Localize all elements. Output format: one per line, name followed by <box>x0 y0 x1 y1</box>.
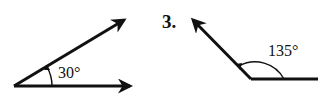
ray-upper-left <box>193 20 251 79</box>
angle-diagrams: 3. 30° 135° <box>0 0 318 108</box>
angle-135-figure <box>193 20 318 79</box>
angle-label-135: 135° <box>268 42 298 60</box>
angle-arc-135 <box>239 62 284 79</box>
problem-number: 3. <box>162 11 176 33</box>
angle-label-30: 30° <box>58 64 80 82</box>
